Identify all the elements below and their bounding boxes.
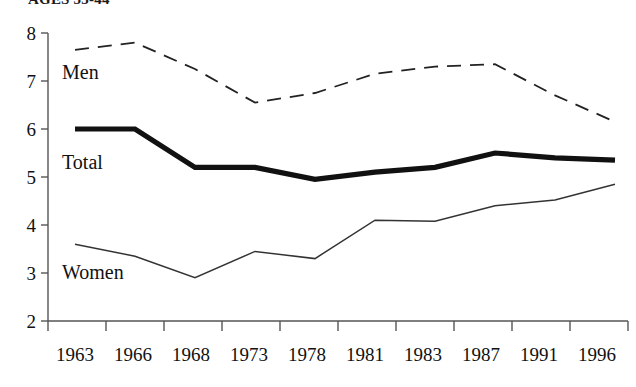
y-tick-label-7: 7	[10, 72, 36, 91]
chart-plot-area	[0, 0, 636, 387]
series-label-women: Women	[62, 262, 124, 282]
x-tick-label-1973: 1973	[219, 345, 279, 364]
y-tick-label-4: 4	[10, 216, 36, 235]
x-tick-label-1983: 1983	[393, 345, 453, 364]
x-tick-marks	[48, 321, 628, 331]
x-tick-label-1991: 1991	[509, 345, 569, 364]
x-tick-label-1987: 1987	[451, 345, 511, 364]
chart-container: AGES 35-44	[0, 0, 636, 387]
y-tick-marks	[41, 33, 48, 321]
series-line-total	[75, 129, 615, 179]
y-tick-label-3: 3	[10, 264, 36, 283]
y-tick-label-2: 2	[10, 312, 36, 331]
series-label-total: Total	[62, 152, 103, 172]
y-tick-label-6: 6	[10, 120, 36, 139]
x-tick-label-1978: 1978	[277, 345, 337, 364]
x-tick-label-1963: 1963	[45, 345, 105, 364]
x-tick-label-1981: 1981	[335, 345, 395, 364]
y-tick-label-5: 5	[10, 168, 36, 187]
series-line-men	[75, 43, 615, 122]
y-tick-label-8: 8	[10, 24, 36, 43]
x-tick-label-1996: 1996	[567, 345, 627, 364]
x-tick-label-1966: 1966	[103, 345, 163, 364]
x-tick-label-1968: 1968	[161, 345, 221, 364]
series-label-men: Men	[62, 62, 99, 82]
series-line-women	[75, 184, 615, 278]
